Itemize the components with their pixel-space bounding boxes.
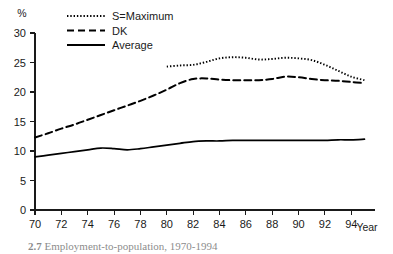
x-tick-label: 80 bbox=[161, 218, 173, 230]
y-tick-label: 5 bbox=[20, 175, 26, 187]
legend-label: Average bbox=[112, 39, 153, 51]
line-chart-plot: % 051015202530 7072747678808284868890929… bbox=[0, 0, 393, 254]
x-tick-label: 72 bbox=[55, 218, 67, 230]
x-tick-label: 76 bbox=[108, 218, 120, 230]
x-tick-label: 82 bbox=[187, 218, 199, 230]
x-tick-label: 78 bbox=[134, 218, 146, 230]
y-tick-label: 30 bbox=[14, 27, 26, 39]
y-tick-label: 20 bbox=[14, 86, 26, 98]
series-line-average bbox=[35, 139, 364, 157]
y-axis-ticks: 051015202530 bbox=[14, 27, 35, 216]
x-axis-ticks: 70727476788082848688909294 bbox=[29, 210, 358, 230]
y-tick-label: 15 bbox=[14, 116, 26, 128]
figure-caption-text: Employment-to-population, 1970-1994 bbox=[45, 240, 218, 252]
legend-label: DK bbox=[112, 25, 128, 37]
legend-label: S=Maximum bbox=[112, 10, 173, 22]
x-tick-label: 84 bbox=[213, 218, 225, 230]
x-tick-label: 90 bbox=[292, 218, 304, 230]
y-tick-label: 10 bbox=[14, 145, 26, 157]
chart-legend: S=MaximumDKAverage bbox=[67, 10, 173, 51]
x-tick-label: 88 bbox=[266, 218, 278, 230]
x-tick-label: 74 bbox=[82, 218, 94, 230]
x-tick-label: 86 bbox=[240, 218, 252, 230]
series-line-s-maximum bbox=[167, 57, 365, 80]
x-axis-title: Year bbox=[356, 221, 378, 233]
x-tick-label: 92 bbox=[319, 218, 331, 230]
x-tick-label: 70 bbox=[29, 218, 41, 230]
y-tick-label: 0 bbox=[20, 204, 26, 216]
figure-caption-number: 2.7 bbox=[28, 240, 42, 252]
y-tick-label: 25 bbox=[14, 57, 26, 69]
chart-series-group bbox=[35, 57, 364, 157]
chart-figure: % 051015202530 7072747678808284868890929… bbox=[0, 0, 393, 254]
y-axis-title: % bbox=[17, 7, 26, 19]
figure-caption: 2.7 Employment-to-population, 1970-1994 bbox=[28, 240, 217, 252]
series-line-dk bbox=[35, 77, 364, 138]
